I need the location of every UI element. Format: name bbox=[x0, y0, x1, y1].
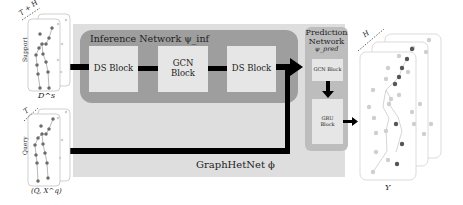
support-caption: D^s bbox=[38, 91, 55, 100]
output-caption: Y bbox=[385, 183, 390, 192]
support-label: Support bbox=[21, 37, 28, 62]
query-caption: (Q, X^q) bbox=[31, 187, 62, 195]
model-caption: GraphHetNet ϕ bbox=[196, 159, 275, 170]
connectors bbox=[0, 0, 463, 205]
query-label: Query bbox=[21, 136, 28, 155]
